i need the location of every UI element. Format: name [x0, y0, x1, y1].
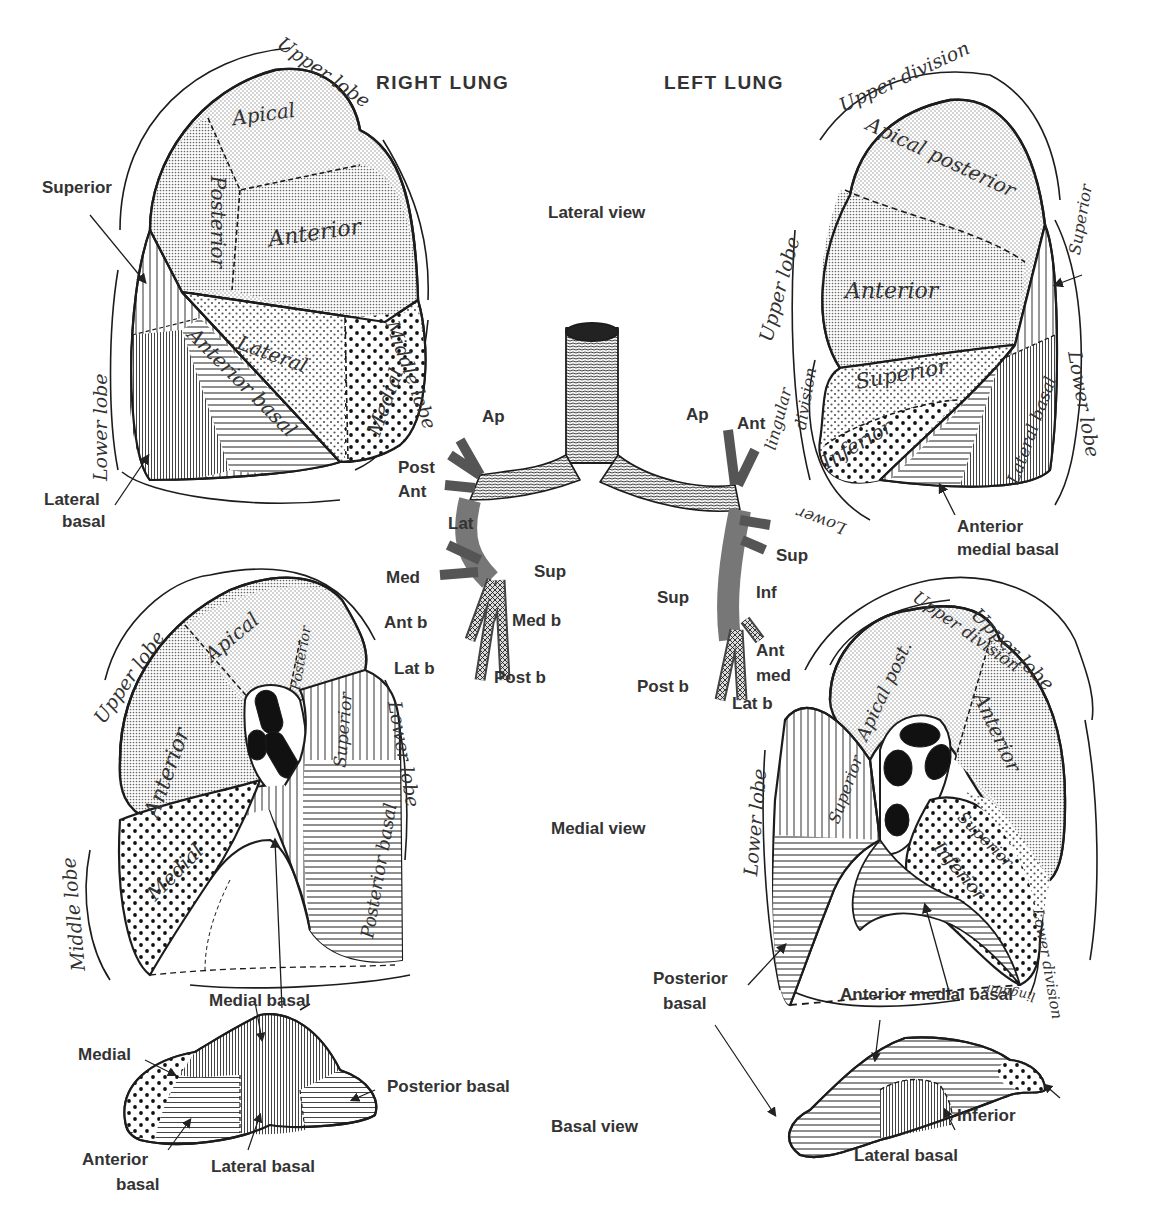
bronchus-right-med: Med [386, 568, 420, 588]
bronchus-right-med-b: Med b [512, 611, 561, 631]
bronchus-right-post: Post [398, 458, 435, 478]
bronchus-right-ant-b: Ant b [384, 613, 427, 633]
bronchus-right-ant: Ant [398, 482, 426, 502]
callout-anterior-medial-basal-line2: medial basal [957, 540, 1059, 560]
callout-anterior-basal-line2: basal [116, 1175, 159, 1195]
basal-view-label: Basal view [551, 1117, 638, 1137]
callout-anterior-medial-basal-line1: Anterior [957, 517, 1023, 537]
callout-posterior-basal-line1: Posterior [653, 969, 728, 989]
medial-view-label: Medial view [551, 819, 645, 839]
callout-anterior-medial-basal: Anterior medial basal [840, 985, 1013, 1005]
bronchus-right-ap: Ap [482, 407, 505, 427]
callout-anterior-basal-line1: Anterior [82, 1150, 148, 1170]
left-lung-title: LEFT LUNG [664, 73, 784, 93]
bronchial-tree [440, 323, 770, 700]
bronchus-left-sup-lingular: Sup [776, 546, 808, 566]
segment-anterior-left: Anterior [845, 278, 938, 303]
right-lateral-lower-lobe-label: Lower lobe [89, 373, 111, 481]
callout-inferior-basal: Inferior [957, 1106, 1016, 1126]
lateral-view-label: Lateral view [548, 203, 645, 223]
segment-posterior: Posterior [206, 176, 230, 268]
right-lung-title: RIGHT LUNG [376, 73, 509, 93]
right-lung-basal [124, 1002, 376, 1150]
bronchus-right-lat: Lat [448, 514, 474, 534]
callout-medial: Medial [78, 1045, 131, 1065]
bronchus-right-lat-b: Lat b [394, 659, 435, 679]
callout-lateral-basal-left: Lateral basal [854, 1146, 958, 1166]
callout-posterior-basal-line2: basal [663, 994, 706, 1014]
callout-lateral-basal-line1: Lateral [44, 490, 100, 510]
callout-posterior-basal: Posterior basal [387, 1077, 510, 1097]
bronchus-left-ant-med-line2: med [756, 666, 791, 686]
bronchus-right-post-b: Post b [494, 668, 546, 688]
bronchus-left-post-b: Post b [637, 677, 689, 697]
bronchus-left-ant: Ant [737, 414, 765, 434]
bronchus-left-ap: Ap [686, 405, 709, 425]
bronchus-left-sup: Sup [657, 588, 689, 608]
callout-lateral-basal-right: Lateral basal [211, 1157, 315, 1177]
callout-medial-basal: Medial basal [209, 991, 310, 1011]
left-lung-basal [715, 1020, 1060, 1157]
callout-lateral-basal-line2: basal [62, 512, 105, 532]
bronchus-left-inf: Inf [756, 583, 777, 603]
bronchus-left-lat-b: Lat b [732, 694, 773, 714]
bronchus-left-ant-med-line1: Ant [756, 641, 784, 661]
bronchus-right-sup: Sup [534, 562, 566, 582]
callout-superior: Superior [42, 178, 112, 198]
